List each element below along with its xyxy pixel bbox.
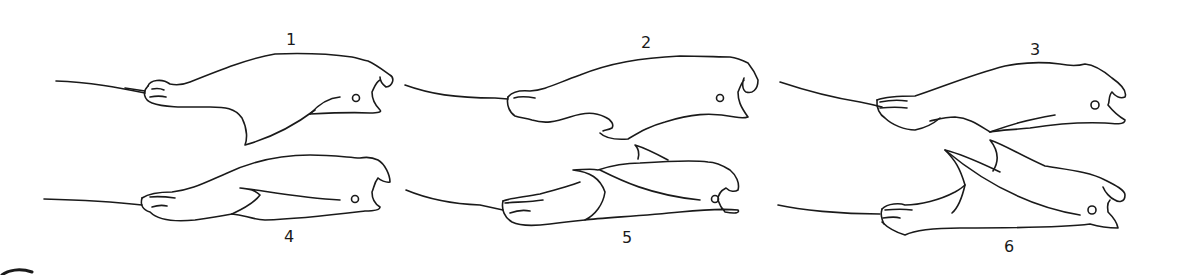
figure-1 (56, 54, 393, 145)
figure-6 (778, 140, 1125, 235)
figure-4 (44, 155, 390, 221)
figure-3 (780, 63, 1125, 132)
puppet-stages-diagram: 1 2 3 4 5 6 (0, 0, 1185, 275)
figure-label-6: 6 (1004, 237, 1014, 256)
figure-2 (405, 56, 758, 139)
corner-mark (2, 270, 32, 275)
figure-label-2: 2 (641, 33, 651, 52)
figure-label-3: 3 (1030, 40, 1040, 59)
figure-label-5: 5 (622, 228, 632, 247)
figure-label-1: 1 (286, 30, 296, 49)
figure-5 (406, 145, 739, 225)
figure-label-4: 4 (284, 227, 294, 246)
